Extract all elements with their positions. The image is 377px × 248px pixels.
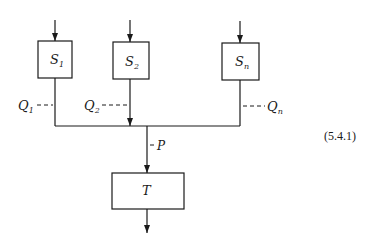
equation-number: (5.4.1) bbox=[324, 129, 356, 143]
label-s1: S1 bbox=[50, 52, 64, 69]
label-t: T bbox=[142, 183, 152, 198]
flow-label-q2: Q2 bbox=[84, 98, 100, 115]
flow-diagram: S1 S2 Sn T Q1 Q2 Qn P (5.4.1) bbox=[0, 0, 377, 248]
label-s2: S2 bbox=[125, 54, 139, 71]
flow-label-qn: Qn bbox=[267, 99, 283, 116]
flow-label-q1: Q1 bbox=[18, 98, 34, 115]
label-sn: Sn bbox=[235, 54, 249, 71]
flow-label-p: P bbox=[156, 139, 166, 153]
